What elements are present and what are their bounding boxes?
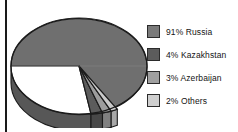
legend-item-russia[interactable]: 91% Russia xyxy=(147,20,238,43)
legend-swatch-others xyxy=(147,94,160,107)
left-border-rule xyxy=(5,0,7,132)
pie-chart-graphic xyxy=(8,6,150,128)
legend-item-azerbaijan[interactable]: 3% Azerbaijan xyxy=(147,66,238,89)
legend-label-russia: 91% Russia xyxy=(166,27,212,37)
legend-swatch-kazakhstan xyxy=(147,48,160,61)
legend-swatch-azerbaijan xyxy=(147,71,160,84)
slice-side-azerbaijan xyxy=(103,111,112,128)
pie-chart-figure: 91% Russia 4% Kazakhstan 3% Azerbaijan 2… xyxy=(0,0,238,132)
legend-label-others: 2% Others xyxy=(166,96,207,106)
legend-item-others[interactable]: 2% Others xyxy=(147,89,238,112)
legend-item-kazakhstan[interactable]: 4% Kazakhstan xyxy=(147,43,238,66)
legend-label-kazakhstan: 4% Kazakhstan xyxy=(166,50,226,60)
slice-side-others xyxy=(111,109,117,127)
slice-side-russia xyxy=(11,66,91,128)
slice-side-kazakhstan xyxy=(91,113,103,128)
legend-swatch-russia xyxy=(147,25,160,38)
legend-label-azerbaijan: 3% Azerbaijan xyxy=(166,73,222,83)
pie-svg xyxy=(8,6,150,128)
chart-legend: 91% Russia 4% Kazakhstan 3% Azerbaijan 2… xyxy=(147,20,238,116)
